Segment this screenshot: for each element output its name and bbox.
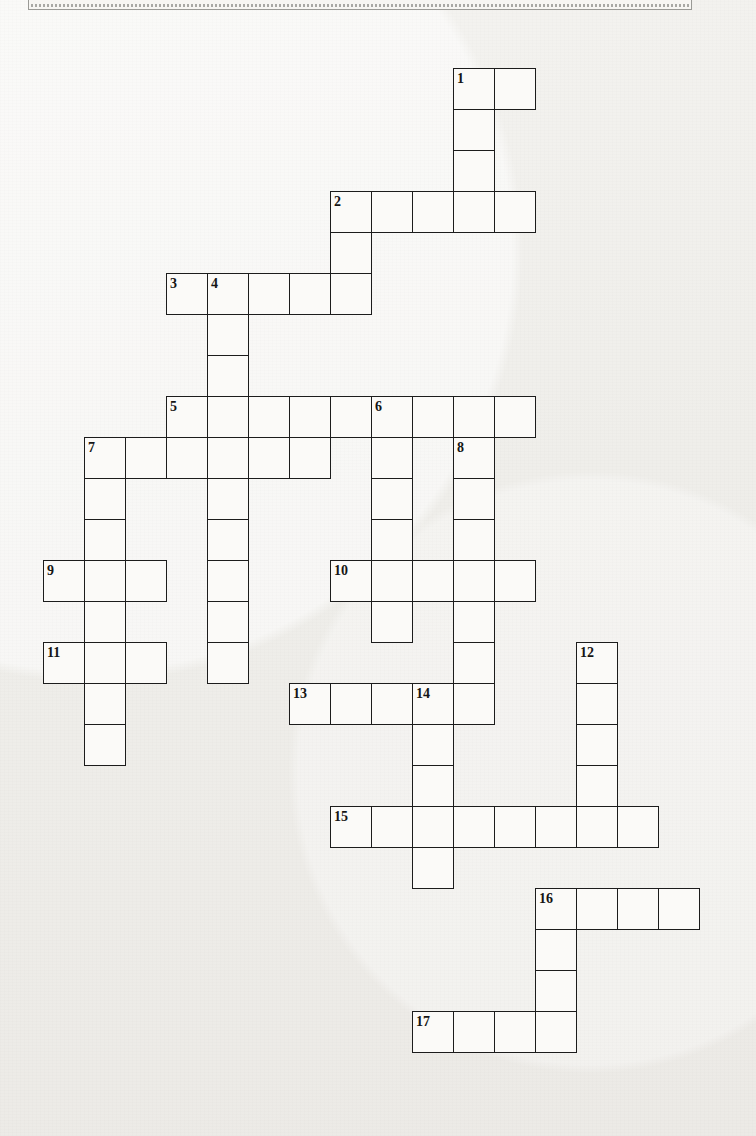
grid-cell[interactable] <box>166 396 208 438</box>
grid-cell[interactable] <box>166 437 208 479</box>
grid-cell[interactable] <box>494 1011 536 1053</box>
grid-cell[interactable] <box>125 437 167 479</box>
grid-cell[interactable] <box>453 1011 495 1053</box>
grid-cell[interactable] <box>658 888 700 930</box>
grid-cell[interactable] <box>207 601 249 643</box>
grid-cell[interactable] <box>412 765 454 807</box>
grid-cell[interactable] <box>207 437 249 479</box>
grid-cell[interactable] <box>617 888 659 930</box>
grid-cell[interactable] <box>248 396 290 438</box>
grid-cell[interactable] <box>494 806 536 848</box>
grid-cell[interactable] <box>125 560 167 602</box>
crossword-grid[interactable]: 1234567891011121314151617 <box>0 0 756 1136</box>
grid-cell[interactable] <box>207 519 249 561</box>
grid-cell[interactable] <box>330 560 372 602</box>
grid-cell[interactable] <box>84 724 126 766</box>
grid-cell[interactable] <box>371 560 413 602</box>
grid-cell[interactable] <box>84 478 126 520</box>
grid-cell[interactable] <box>453 396 495 438</box>
grid-cell[interactable] <box>125 642 167 684</box>
grid-cell[interactable] <box>207 642 249 684</box>
grid-cell[interactable] <box>535 888 577 930</box>
grid-cell[interactable] <box>84 642 126 684</box>
grid-cell[interactable] <box>330 396 372 438</box>
grid-cell[interactable] <box>453 109 495 151</box>
grid-cell[interactable] <box>207 560 249 602</box>
grid-cell[interactable] <box>371 806 413 848</box>
grid-cell[interactable] <box>84 519 126 561</box>
grid-cell[interactable] <box>494 68 536 110</box>
grid-cell[interactable] <box>453 601 495 643</box>
grid-cell[interactable] <box>453 68 495 110</box>
grid-cell[interactable] <box>535 806 577 848</box>
grid-cell[interactable] <box>412 683 454 725</box>
grid-cell[interactable] <box>453 560 495 602</box>
grid-cell[interactable] <box>371 478 413 520</box>
grid-cell[interactable] <box>412 396 454 438</box>
grid-cell[interactable] <box>84 683 126 725</box>
grid-cell[interactable] <box>289 396 331 438</box>
grid-cell[interactable] <box>207 273 249 315</box>
grid-cell[interactable] <box>453 191 495 233</box>
grid-cell[interactable] <box>412 806 454 848</box>
grid-cell[interactable] <box>43 642 85 684</box>
grid-cell[interactable] <box>576 642 618 684</box>
grid-cell[interactable] <box>494 560 536 602</box>
grid-cell[interactable] <box>371 191 413 233</box>
grid-cell[interactable] <box>576 806 618 848</box>
grid-cell[interactable] <box>330 806 372 848</box>
grid-cell[interactable] <box>535 1011 577 1053</box>
grid-cell[interactable] <box>453 683 495 725</box>
grid-cell[interactable] <box>412 1011 454 1053</box>
grid-cell[interactable] <box>289 273 331 315</box>
grid-cell[interactable] <box>453 519 495 561</box>
grid-cell[interactable] <box>289 683 331 725</box>
grid-cell[interactable] <box>453 150 495 192</box>
grid-cell[interactable] <box>84 560 126 602</box>
grid-cell[interactable] <box>453 478 495 520</box>
grid-cell[interactable] <box>207 355 249 397</box>
grid-cell[interactable] <box>330 273 372 315</box>
grid-cell[interactable] <box>576 683 618 725</box>
grid-cell[interactable] <box>494 191 536 233</box>
grid-cell[interactable] <box>84 437 126 479</box>
grid-cell[interactable] <box>43 560 85 602</box>
grid-cell[interactable] <box>453 806 495 848</box>
grid-cell[interactable] <box>289 437 331 479</box>
grid-cell[interactable] <box>576 888 618 930</box>
grid-cell[interactable] <box>453 642 495 684</box>
grid-cell[interactable] <box>84 601 126 643</box>
grid-cell[interactable] <box>494 396 536 438</box>
grid-cell[interactable] <box>371 437 413 479</box>
grid-cell[interactable] <box>207 314 249 356</box>
grid-cell[interactable] <box>535 929 577 971</box>
grid-cell[interactable] <box>412 191 454 233</box>
grid-cell[interactable] <box>535 970 577 1012</box>
grid-cell[interactable] <box>453 437 495 479</box>
grid-cell[interactable] <box>166 273 208 315</box>
grid-cell[interactable] <box>412 847 454 889</box>
grid-cell[interactable] <box>371 683 413 725</box>
grid-cell[interactable] <box>207 396 249 438</box>
grid-cell[interactable] <box>576 765 618 807</box>
grid-cell[interactable] <box>248 437 290 479</box>
grid-cell[interactable] <box>371 396 413 438</box>
grid-cell[interactable] <box>576 724 618 766</box>
grid-cell[interactable] <box>330 232 372 274</box>
grid-cell[interactable] <box>330 191 372 233</box>
grid-cell[interactable] <box>412 724 454 766</box>
grid-cell[interactable] <box>330 683 372 725</box>
grid-cell[interactable] <box>248 273 290 315</box>
grid-cell[interactable] <box>617 806 659 848</box>
grid-cell[interactable] <box>371 519 413 561</box>
grid-cell[interactable] <box>207 478 249 520</box>
grid-cell[interactable] <box>371 601 413 643</box>
grid-cell[interactable] <box>412 560 454 602</box>
